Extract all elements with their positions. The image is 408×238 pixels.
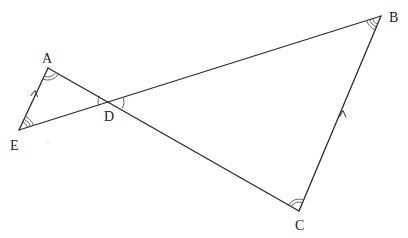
label-d: D	[104, 109, 114, 124]
segment-ac	[48, 68, 299, 211]
geometry-diagram: A B C D E	[0, 0, 408, 238]
segment-eb	[19, 16, 381, 130]
segment-ae	[19, 68, 48, 130]
stray-dot	[47, 141, 48, 142]
label-e: E	[10, 138, 19, 153]
label-b: B	[389, 10, 398, 25]
segment-bc	[299, 16, 381, 211]
label-c: C	[295, 218, 304, 233]
label-a: A	[42, 51, 53, 66]
